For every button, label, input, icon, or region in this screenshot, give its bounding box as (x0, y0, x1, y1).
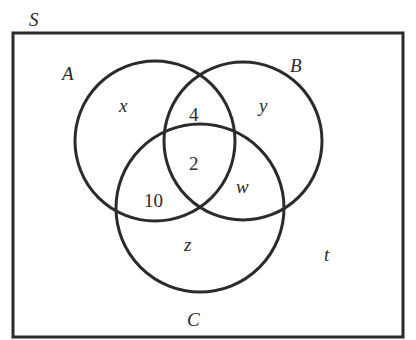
set-c-label: C (187, 309, 200, 330)
region-outside: t (324, 244, 330, 265)
venn-diagram: S A B C x y 4 2 10 w z t (0, 0, 416, 340)
region-a-b-c: 2 (189, 153, 199, 174)
region-only-c: z (183, 234, 192, 255)
set-a-label: A (60, 63, 74, 84)
universal-set-label: S (29, 9, 39, 30)
region-only-a: x (118, 95, 128, 116)
region-b-and-c-only: w (236, 176, 249, 197)
region-only-b: y (257, 95, 268, 116)
region-a-and-b-only: 4 (189, 104, 199, 125)
region-a-and-c-only: 10 (144, 190, 163, 211)
set-b-label: B (290, 55, 302, 76)
